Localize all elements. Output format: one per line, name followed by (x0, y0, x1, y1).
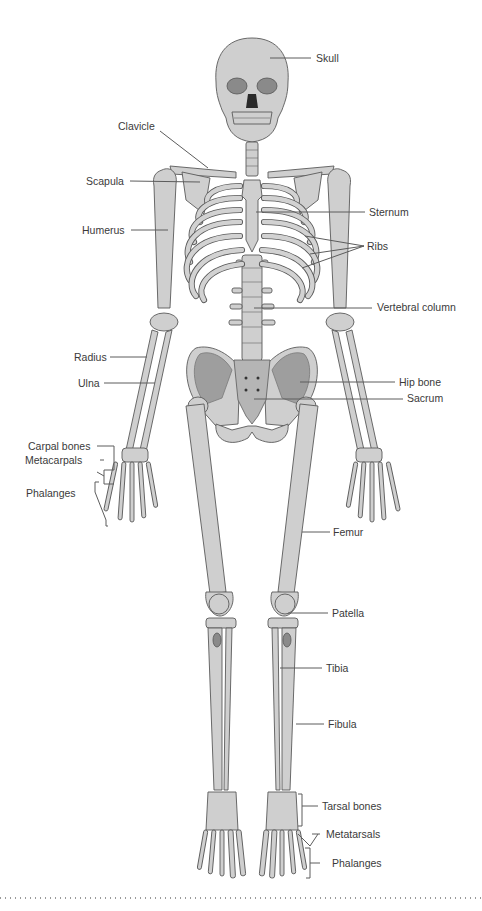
label-metatarsals: Metatarsals (326, 828, 380, 840)
label-carpal-bones: Carpal bones (28, 440, 90, 452)
label-radius: Radius (74, 351, 107, 363)
label-sacrum: Sacrum (407, 392, 443, 404)
feet-illustration (197, 792, 307, 878)
label-skull: Skull (316, 52, 339, 64)
label-hip-bone: Hip bone (399, 376, 441, 388)
label-vertebral-column: Vertebral column (377, 301, 456, 313)
label-clavicle: Clavicle (118, 120, 155, 132)
label-femur: Femur (333, 526, 363, 538)
label-foot-phalanges: Phalanges (332, 857, 382, 869)
label-patella: Patella (332, 607, 364, 619)
label-ribs: Ribs (367, 240, 388, 252)
label-tarsal-bones: Tarsal bones (322, 800, 382, 812)
skull-illustration (216, 38, 288, 142)
skeleton-diagram: Skull Clavicle Scapula Sternum Humerus R… (0, 0, 482, 911)
label-fibula: Fibula (328, 718, 357, 730)
label-hand-phalanges: Phalanges (26, 487, 76, 499)
label-tibia: Tibia (326, 662, 348, 674)
label-ulna: Ulna (78, 377, 100, 389)
label-metacarpals: Metacarpals (25, 454, 82, 466)
hands-illustration (104, 448, 401, 522)
label-sternum: Sternum (369, 206, 409, 218)
legs-illustration (186, 397, 318, 790)
label-scapula: Scapula (86, 175, 124, 187)
label-humerus: Humerus (82, 224, 125, 236)
